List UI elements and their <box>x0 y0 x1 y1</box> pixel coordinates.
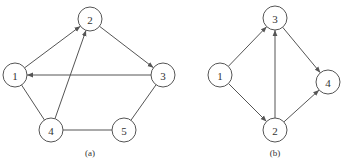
node-b-1: 1 <box>208 63 232 87</box>
node-b-2: 2 <box>263 118 287 142</box>
edge-b-1-2 <box>228 83 266 121</box>
edge-a-1-2 <box>25 26 81 68</box>
caption-b: (b) <box>270 148 281 158</box>
nodes-layer: 123451234 <box>3 6 340 142</box>
graph-diagram: 123451234 (a)(b) <box>0 0 343 168</box>
node-label: 2 <box>272 125 278 137</box>
node-label: 3 <box>272 13 278 25</box>
edge-b-2-4 <box>284 90 319 122</box>
node-a-3: 3 <box>151 63 175 87</box>
captions-layer: (a)(b) <box>85 148 280 158</box>
edge-a-1-4 <box>22 85 45 120</box>
node-label: 1 <box>217 70 223 82</box>
node-b-3: 3 <box>263 6 287 30</box>
node-label: 2 <box>87 14 93 26</box>
node-a-2: 2 <box>78 7 102 31</box>
edge-b-1-3 <box>228 27 266 67</box>
edge-a-5-3 <box>131 85 156 120</box>
node-a-5: 5 <box>112 118 136 142</box>
edge-a-2-3 <box>100 26 154 67</box>
edge-b-3-4 <box>283 27 321 73</box>
node-a-4: 4 <box>39 118 63 142</box>
node-a-1: 1 <box>3 63 27 87</box>
node-label: 1 <box>12 70 18 82</box>
node-b-4: 4 <box>316 70 340 94</box>
caption-a: (a) <box>85 148 95 158</box>
node-label: 3 <box>160 70 166 82</box>
node-label: 5 <box>121 125 127 137</box>
node-label: 4 <box>325 77 331 89</box>
node-label: 4 <box>48 125 54 137</box>
